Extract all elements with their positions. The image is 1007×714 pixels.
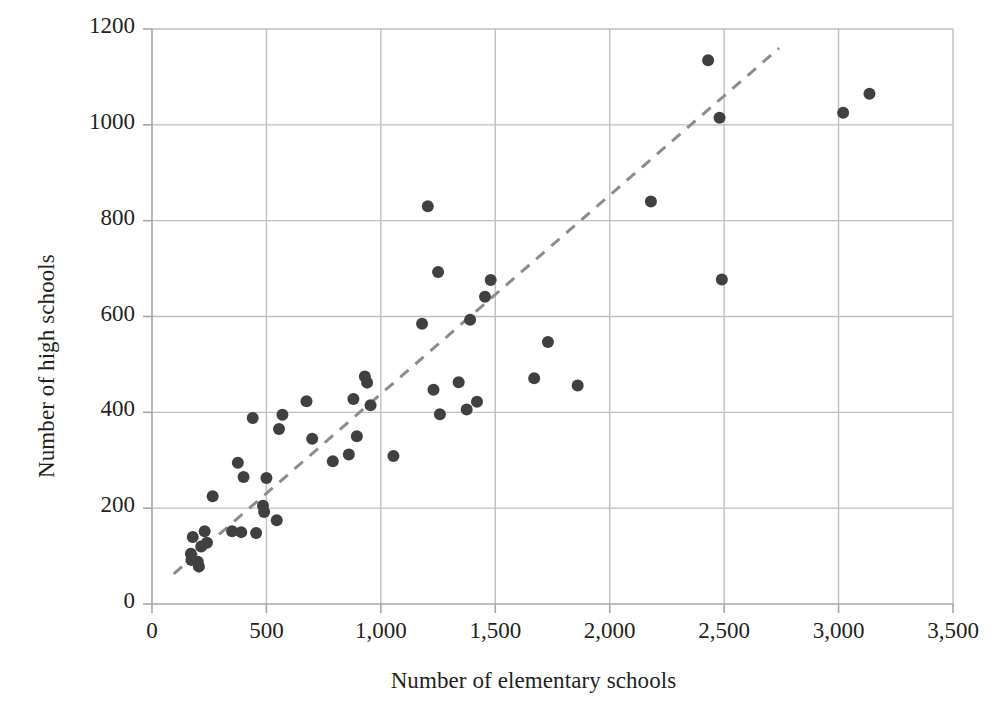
data-point-marker bbox=[273, 423, 285, 435]
scatter-chart-figure: 02004006008001000120005001,0001,5002,000… bbox=[0, 0, 1007, 714]
data-point-marker bbox=[716, 274, 728, 286]
y-tick-label: 400 bbox=[15, 396, 135, 422]
data-point-marker bbox=[258, 506, 270, 518]
data-point-marker bbox=[247, 412, 259, 424]
data-point-marker bbox=[528, 372, 540, 384]
data-point-marker bbox=[464, 314, 476, 326]
data-point-marker bbox=[347, 393, 359, 405]
y-axis-title: Number of high schools bbox=[34, 254, 60, 478]
data-point-marker bbox=[471, 396, 483, 408]
data-point-marker bbox=[207, 490, 219, 502]
data-point-marker bbox=[702, 54, 714, 66]
data-points bbox=[185, 54, 876, 572]
data-point-marker bbox=[250, 527, 262, 539]
trendline-dashed bbox=[174, 48, 779, 574]
data-point-marker bbox=[365, 399, 377, 411]
data-point-marker bbox=[714, 112, 726, 124]
x-tick-label: 3,000 bbox=[779, 618, 899, 644]
data-point-marker bbox=[187, 531, 199, 543]
data-point-marker bbox=[201, 537, 213, 549]
data-point-marker bbox=[645, 196, 657, 208]
data-point-marker bbox=[434, 408, 446, 420]
data-point-marker bbox=[235, 526, 247, 538]
y-tick-label: 1200 bbox=[15, 13, 135, 39]
y-tick-label: 200 bbox=[15, 492, 135, 518]
data-point-marker bbox=[542, 336, 554, 348]
x-tick-label: 1,000 bbox=[321, 618, 441, 644]
y-tick-label: 800 bbox=[15, 205, 135, 231]
data-point-marker bbox=[343, 449, 355, 461]
data-point-marker bbox=[276, 409, 288, 421]
data-point-marker bbox=[193, 561, 205, 573]
plot-canvas bbox=[0, 0, 1007, 714]
data-point-marker bbox=[427, 384, 439, 396]
data-point-marker bbox=[300, 395, 312, 407]
data-point-marker bbox=[306, 433, 318, 445]
data-point-marker bbox=[485, 274, 497, 286]
x-tick-label: 0 bbox=[92, 618, 212, 644]
x-tick-label: 2,000 bbox=[550, 618, 670, 644]
data-point-marker bbox=[416, 318, 428, 330]
data-point-marker bbox=[453, 376, 465, 388]
data-point-marker bbox=[238, 471, 250, 483]
data-point-marker bbox=[837, 107, 849, 119]
data-point-marker bbox=[351, 430, 363, 442]
y-tick-label: 1000 bbox=[15, 109, 135, 135]
data-point-marker bbox=[260, 472, 272, 484]
y-tick-label: 600 bbox=[15, 301, 135, 327]
y-tick-label: 0 bbox=[15, 588, 135, 614]
data-point-marker bbox=[479, 291, 491, 303]
x-tick-label: 500 bbox=[206, 618, 326, 644]
data-point-marker bbox=[572, 380, 584, 392]
x-tick-label: 2,500 bbox=[664, 618, 784, 644]
data-point-marker bbox=[271, 514, 283, 526]
data-point-marker bbox=[199, 525, 211, 537]
tick-marks bbox=[143, 29, 953, 613]
data-point-marker bbox=[361, 377, 373, 389]
data-point-marker bbox=[232, 457, 244, 469]
data-point-marker bbox=[422, 200, 434, 212]
x-tick-label: 1,500 bbox=[435, 618, 555, 644]
data-point-marker bbox=[863, 88, 875, 100]
data-point-marker bbox=[432, 266, 444, 278]
data-point-marker bbox=[327, 455, 339, 467]
trendline bbox=[174, 48, 779, 574]
x-tick-label: 3,500 bbox=[893, 618, 1007, 644]
data-point-marker bbox=[461, 403, 473, 415]
x-axis-title: Number of elementary schools bbox=[0, 668, 1007, 694]
data-point-marker bbox=[387, 450, 399, 462]
